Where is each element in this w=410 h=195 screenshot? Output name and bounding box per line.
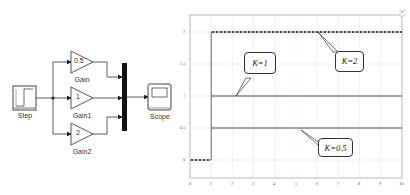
x-tick-3: 3 xyxy=(252,181,254,186)
x-tick-9: 9 xyxy=(379,181,381,186)
x-tick-1: 1 xyxy=(210,181,212,186)
y-tick-2: 2 xyxy=(183,29,185,34)
y-tick-1.5: 1.5 xyxy=(180,61,186,66)
x-tick-4: 4 xyxy=(273,181,275,186)
y-tick-0.5: 0.5 xyxy=(180,125,186,130)
x-tick-10: 10 xyxy=(399,181,404,186)
x-tick-2: 2 xyxy=(231,181,233,186)
callout-k1: K=1 xyxy=(244,52,276,74)
callout-k05: K=0.5 xyxy=(318,138,353,157)
x-tick-0: 0 xyxy=(189,181,191,186)
y-tick-0: 0 xyxy=(183,157,185,162)
x-tick-6: 6 xyxy=(316,181,318,186)
callout-k2: K=2 xyxy=(335,51,364,72)
corner-label: n xyxy=(401,9,403,14)
x-tick-8: 8 xyxy=(358,181,360,186)
y-tick-1: 1 xyxy=(183,93,185,98)
x-tick-5: 5 xyxy=(295,181,297,186)
scope-plot xyxy=(0,0,410,195)
x-tick-7: 7 xyxy=(337,181,339,186)
